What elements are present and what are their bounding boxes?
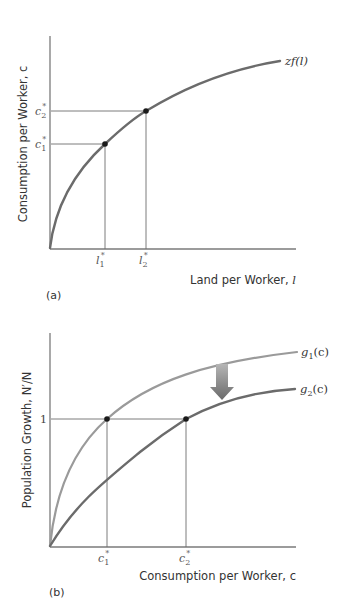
y-axis-label-a: Consumption per Worker, c (16, 66, 30, 223)
equilibrium-point-2 (183, 416, 189, 422)
curve-g1 (50, 352, 297, 546)
equilibrium-point-2 (143, 108, 149, 114)
panel-tag-a: (a) (46, 289, 61, 302)
shift-down-arrow-icon (210, 364, 234, 400)
x-tick-l1: l1* (96, 251, 105, 269)
curve-label-g1: g1(c) (301, 345, 329, 361)
equilibrium-point-1 (104, 416, 110, 422)
x-axis-label-b: Consumption per Worker, c (139, 569, 296, 583)
panel-a: zf(l) c2* c1* l1* l2* Consumption per Wo… (16, 36, 308, 302)
curve-g2 (50, 389, 295, 546)
x-tick-c1: c1* (98, 549, 109, 567)
y-tick-c1: c1* (35, 135, 46, 153)
y-axis-label-b: Population Growth, N′/N (20, 372, 34, 509)
y-tick-c2: c2* (35, 102, 46, 120)
y-tick-one: 1 (40, 413, 47, 426)
curve-label-g2: g2(c) (300, 382, 328, 398)
curve-zf (50, 61, 280, 248)
figure: zf(l) c2* c1* l1* l2* Consumption per Wo… (0, 0, 345, 599)
x-tick-l2: l2* (139, 251, 148, 269)
curve-label-zf: zf(l) (284, 54, 308, 68)
panel-tag-b: (b) (49, 586, 65, 599)
panel-b: g1(c) g2(c) 1 c1* c2* Population Growth,… (20, 333, 329, 599)
x-axis-label-a: Land per Worker, l (190, 273, 296, 287)
equilibrium-point-1 (102, 141, 108, 147)
x-tick-c2: c2* (179, 549, 190, 567)
